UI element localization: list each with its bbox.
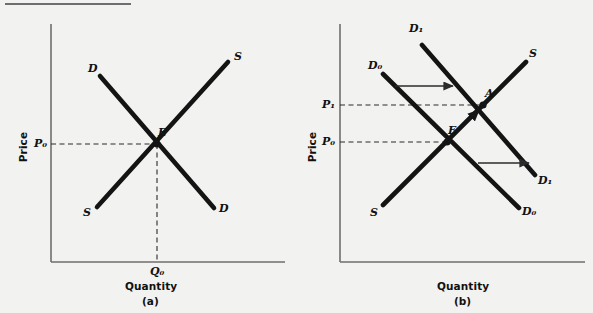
panel-b-supply-label-bottom: S [370,206,378,219]
panel-a-quantity-tick-label: Q₀ [150,265,164,278]
panel-a-demand-label-top: D [88,62,98,75]
panel-b-demand1-label-bottom: D₁ [538,174,552,187]
panel-a: D D S S E P₀ Q₀ Price Quantity (a) [0,0,296,313]
panel-b-movement-arrow [453,110,479,135]
panel-b-initial-equilibrium-label: E [448,124,456,137]
panel-b-demand1-label-top: D₁ [409,22,423,35]
panel-b-price1-tick-label: P₁ [322,98,335,111]
panel-a-supply-label-top: S [234,50,242,63]
panel-a-y-axis-title: Price [17,120,29,174]
panel-b-price0-tick-label: P₀ [322,135,335,148]
panel-b-x-axis-title: Quantity [437,280,489,292]
panel-b-demand0-label-bottom: D₀ [522,205,536,218]
panel-a-price-tick-label: P₀ [34,137,47,150]
panel-a-equilibrium-label: E [158,126,166,139]
panel-a-demand-label-bottom: D [219,202,229,215]
figure-root: D D S S E P₀ Q₀ Price Quantity (a) [0,0,593,313]
panel-a-plot [0,0,296,313]
panel-a-supply-label-bottom: S [83,206,91,219]
panel-b-plot [297,0,593,313]
panel-b-supply-label-top: S [529,47,537,60]
panel-b-demand0-label-top: D₀ [368,59,382,72]
panel-b-new-equilibrium-dot [479,101,486,108]
panel-a-equilibrium-dot [153,140,160,147]
panel-b-new-equilibrium-label: A [485,87,494,100]
panel-b-demand0-curve [383,74,519,208]
panel-a-caption: (a) [142,295,159,307]
panel-a-x-axis-title: Quantity [125,280,177,292]
panel-b-initial-equilibrium-dot [443,138,450,145]
panel-b-y-axis-title: Price [306,120,318,174]
panel-b-caption: (b) [454,295,471,307]
panel-b: D₁ D₁ D₀ D₀ S S E A P₁ P₀ Price Quantity… [297,0,593,313]
